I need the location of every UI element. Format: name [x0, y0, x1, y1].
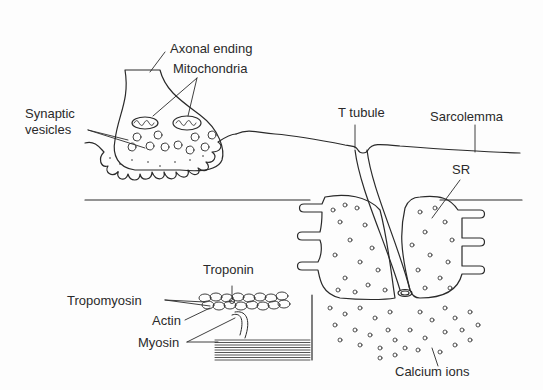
axon-terminal — [114, 70, 223, 171]
leader-mitochondria-1 — [153, 78, 197, 116]
diagram-artwork — [0, 0, 543, 390]
label-vesicles: vesicles — [25, 123, 71, 137]
label-myosin: Myosin — [138, 336, 179, 350]
label-sarcolemma: Sarcolemma — [430, 110, 503, 124]
calcium-ions — [328, 306, 480, 360]
label-synaptic: Synaptic — [25, 107, 75, 121]
thin-filament — [199, 286, 290, 310]
label-troponin: Troponin — [203, 263, 254, 277]
label-actin: Actin — [152, 314, 181, 328]
label-mitochondria: Mitochondria — [173, 62, 247, 76]
mitochondrion-2 — [173, 116, 201, 130]
leader-mitochondria-2 — [188, 78, 197, 116]
leader-axonal-ending — [150, 52, 165, 72]
synaptic-vesicles — [128, 131, 216, 154]
thick-filament — [215, 312, 310, 360]
leader-myosin-head — [187, 318, 235, 342]
sarcoplasmic-reticulum — [298, 195, 485, 299]
label-tropomyosin: Tropomyosin — [67, 294, 142, 308]
label-t-tubule: T tubule — [338, 106, 385, 120]
leader-actin — [185, 308, 210, 320]
leader-sr — [432, 180, 460, 218]
label-calcium-ions: Calcium ions — [395, 365, 469, 379]
label-sr: SR — [452, 163, 470, 177]
leader-lines — [88, 52, 475, 366]
label-axonal-ending: Axonal ending — [170, 42, 252, 56]
diagram-canvas: Axonal ending Mitochondria Synaptic vesi… — [0, 0, 543, 390]
